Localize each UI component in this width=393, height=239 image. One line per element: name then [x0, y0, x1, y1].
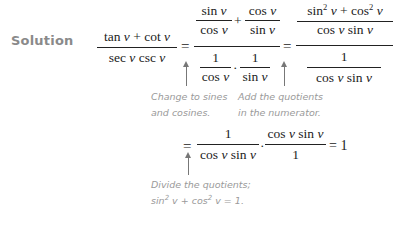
arrow-up-icon	[186, 66, 187, 86]
plus-sign: +	[234, 14, 242, 28]
line2-term1: 1 cos v sin v	[197, 127, 259, 162]
line2-term2: cos v sin v 1	[265, 127, 326, 162]
step2-inner-bar-top	[297, 21, 393, 22]
lhs-denominator: sec v csc v	[109, 51, 166, 65]
step1-den-term2: 1 sin v	[240, 51, 270, 84]
result: = 1	[329, 139, 347, 153]
arrow-up-icon	[188, 157, 189, 175]
annotation-divide-quotients: Divide the quotients; sin2 v + cos2 v = …	[151, 177, 251, 209]
step1-num-term2: cos v sin v	[245, 4, 280, 37]
dot-operator: ·	[233, 61, 238, 75]
main-fraction-bar	[194, 46, 280, 47]
arrow-up-icon	[284, 66, 285, 86]
lhs-fraction: tan v + cot v sec v csc v	[97, 30, 177, 65]
solution-label: Solution	[11, 33, 73, 48]
annotation-change-to-sines: Change to sines and cosines.	[151, 89, 227, 121]
equals-sign-2: =	[283, 38, 291, 55]
step1-compound-fraction: sin v cos v + cos v sin v 1 cos v · 1 si…	[196, 4, 280, 84]
fraction-bar	[97, 47, 177, 48]
dot-operator: ·	[260, 139, 265, 153]
annotation-add-quotients: Add the quotients in the numerator.	[238, 89, 323, 121]
equals-sign-1: =	[181, 38, 189, 55]
step2-denominator: 1 cos v sin v	[307, 50, 381, 85]
step2-compound-fraction: sin2 v + cos2 v cos v sin v 1 cos v sin …	[297, 4, 393, 84]
main-fraction-bar	[296, 45, 393, 46]
lhs-numerator: tan v + cot v	[104, 30, 170, 44]
step1-den-term1: 1 cos v	[200, 51, 231, 84]
step1-num-term1: sin v cos v	[196, 4, 232, 37]
